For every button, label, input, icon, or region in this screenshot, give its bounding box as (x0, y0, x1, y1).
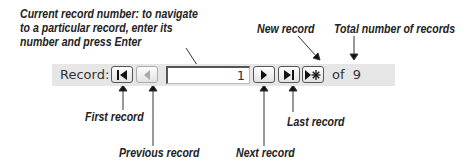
previous-record-button[interactable] (136, 66, 158, 83)
new-record-button[interactable] (302, 66, 324, 83)
of-label: of (332, 67, 345, 82)
next-record-button[interactable] (253, 66, 275, 83)
record-label: Record: (60, 67, 109, 82)
current-record-field[interactable]: 1 (166, 66, 250, 84)
first-record-button[interactable] (111, 66, 133, 83)
total-records-count: 9 (353, 67, 361, 82)
previous-record-icon (143, 70, 151, 80)
next-record-icon (260, 70, 268, 80)
first-record-icon (116, 70, 128, 80)
last-record-icon (283, 70, 295, 80)
last-record-button[interactable] (278, 66, 300, 83)
total-records-text: of 9 (332, 67, 361, 82)
record-navigation-bar: Record: 1 of 9 (52, 64, 395, 86)
new-record-icon (305, 70, 321, 80)
